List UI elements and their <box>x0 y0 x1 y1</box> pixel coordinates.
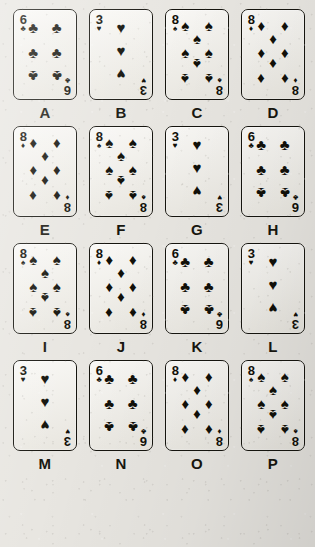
playing-card-o[interactable]: 8♦8♦♦♦♦♦♦♦♦♦ <box>165 360 229 451</box>
pip-field: ♠♠♠♠♠♠♠♠ <box>102 136 140 207</box>
playing-card-d[interactable]: 8♦8♦♦♦♦♦♦♦♦♦ <box>241 9 305 100</box>
clubs-pip-icon: ♣ <box>256 161 266 176</box>
diamonds-pip-icon: ♦ <box>117 265 125 280</box>
corner-index-tl: 8♠ <box>93 130 106 150</box>
pip-field: ♣♣♣♣♣♣ <box>254 136 292 207</box>
clubs-pip-icon: ♣ <box>104 370 114 385</box>
card-rank: 8 <box>216 84 223 97</box>
pip-field: ♥♥♥ <box>178 136 216 207</box>
pip-field: ♥♥♥ <box>254 253 292 324</box>
diamonds-pip-icon: ♦ <box>281 71 289 86</box>
clubs-pip-icon: ♣ <box>52 19 62 34</box>
clubs-pip-icon: ♣ <box>280 161 290 176</box>
playing-card-m[interactable]: 3♥3♥♥♥♥ <box>13 360 77 451</box>
diamonds-pip-icon: ♦ <box>129 278 137 293</box>
pip-field: ♦♦♦♦♦♦♦♦ <box>26 136 64 207</box>
clubs-icon: ♣ <box>172 259 177 266</box>
card-cell: 8♠8♠♠♠♠♠♠♠♠♠P <box>241 360 305 471</box>
diamonds-pip-icon: ♦ <box>29 134 37 149</box>
corner-index-br: 6♣ <box>289 194 302 214</box>
diamonds-pip-icon: ♦ <box>205 368 213 383</box>
corner-index-br: 3♥ <box>289 311 302 331</box>
card-label-p: P <box>268 456 278 471</box>
corner-index-br: 8♠ <box>289 428 302 448</box>
spades-pip-icon: ♠ <box>53 251 61 266</box>
playing-card-i[interactable]: 8♠8♠♠♠♠♠♠♠♠♠ <box>13 243 77 334</box>
diamonds-pip-icon: ♦ <box>53 161 61 176</box>
card-label-d: D <box>267 105 278 120</box>
corner-index-br: 8♦ <box>137 311 150 331</box>
diamonds-icon: ♦ <box>217 428 221 435</box>
spades-pip-icon: ♠ <box>29 305 37 320</box>
playing-card-l[interactable]: 3♥3♥♥♥♥ <box>241 243 305 334</box>
hearts-pip-icon: ♥ <box>41 418 50 433</box>
playing-card-b[interactable]: 3♥3♥♥♥♥ <box>89 9 153 100</box>
corner-index-br: 3♥ <box>61 428 74 448</box>
spades-icon: ♠ <box>293 428 297 435</box>
playing-card-e[interactable]: 8♦8♦♦♦♦♦♦♦♦♦ <box>13 126 77 217</box>
card-label-k: K <box>191 339 202 354</box>
spades-pip-icon: ♠ <box>29 278 37 293</box>
hearts-pip-icon: ♥ <box>117 43 126 58</box>
spades-pip-icon: ♠ <box>269 382 277 397</box>
diamonds-pip-icon: ♦ <box>281 44 289 59</box>
card-rank: 6 <box>292 201 299 214</box>
playing-card-g[interactable]: 3♥3♥♥♥♥ <box>165 126 229 217</box>
playing-card-h[interactable]: 6♣6♣♣♣♣♣♣♣ <box>241 126 305 217</box>
spades-pip-icon: ♠ <box>193 31 201 46</box>
playing-card-j[interactable]: 8♦8♦♦♦♦♦♦♦♦♦ <box>89 243 153 334</box>
corner-index-tl: 3♥ <box>245 247 258 267</box>
diamonds-pip-icon: ♦ <box>269 31 277 46</box>
spades-pip-icon: ♠ <box>29 251 37 266</box>
diamonds-pip-icon: ♦ <box>53 188 61 203</box>
diamonds-pip-icon: ♦ <box>53 134 61 149</box>
card-cell: 8♦8♦♦♦♦♦♦♦♦♦O <box>165 360 229 471</box>
diamonds-pip-icon: ♦ <box>193 408 201 423</box>
corner-index-tl: 8♠ <box>169 13 182 33</box>
clubs-pip-icon: ♣ <box>104 419 114 434</box>
clubs-pip-icon: ♣ <box>256 136 266 151</box>
diamonds-icon: ♦ <box>293 77 297 84</box>
playing-card-a[interactable]: 6♣6♣♣♣♣♣♣♣ <box>13 9 77 100</box>
diamonds-pip-icon: ♦ <box>257 44 265 59</box>
playing-card-k[interactable]: 6♣6♣♣♣♣♣♣♣ <box>165 243 229 334</box>
diamonds-icon: ♦ <box>249 25 253 32</box>
hearts-pip-icon: ♥ <box>41 394 50 409</box>
diamonds-icon: ♦ <box>141 311 145 318</box>
clubs-pip-icon: ♣ <box>204 278 214 293</box>
card-rank: 8 <box>292 84 299 97</box>
card-label-n: N <box>115 456 126 471</box>
clubs-pip-icon: ♣ <box>180 278 190 293</box>
playing-card-n[interactable]: 6♣6♣♣♣♣♣♣♣ <box>89 360 153 451</box>
diamonds-pip-icon: ♦ <box>205 395 213 410</box>
diamonds-pip-icon: ♦ <box>105 278 113 293</box>
spades-pip-icon: ♠ <box>205 17 213 32</box>
clubs-icon: ♣ <box>20 25 25 32</box>
diamonds-pip-icon: ♦ <box>29 188 37 203</box>
clubs-pip-icon: ♣ <box>180 253 190 268</box>
spades-pip-icon: ♠ <box>269 408 277 423</box>
pip-field: ♥♥♥ <box>26 370 64 441</box>
corner-index-tl: 8♠ <box>245 364 258 384</box>
card-rank: 8 <box>140 318 147 331</box>
pip-field: ♠♠♠♠♠♠♠♠ <box>178 19 216 90</box>
diamonds-pip-icon: ♦ <box>281 17 289 32</box>
diamonds-icon: ♦ <box>65 194 69 201</box>
spades-pip-icon: ♠ <box>129 188 137 203</box>
card-label-i: I <box>43 339 47 354</box>
corner-index-tl: 6♣ <box>169 247 182 267</box>
card-cell: 3♥3♥♥♥♥M <box>13 360 77 471</box>
card-label-c: C <box>191 105 202 120</box>
hearts-icon: ♥ <box>141 77 146 84</box>
spades-pip-icon: ♠ <box>129 134 137 149</box>
card-label-m: M <box>39 456 52 471</box>
corner-index-br: 6♣ <box>61 77 74 97</box>
spades-pip-icon: ♠ <box>281 422 289 437</box>
diamonds-icon: ♦ <box>21 142 25 149</box>
clubs-icon: ♣ <box>140 428 145 435</box>
playing-card-c[interactable]: 8♠8♠♠♠♠♠♠♠♠♠ <box>165 9 229 100</box>
corner-index-br: 8♦ <box>289 77 302 97</box>
playing-card-f[interactable]: 8♠8♠♠♠♠♠♠♠♠♠ <box>89 126 153 217</box>
diamonds-icon: ♦ <box>97 259 101 266</box>
playing-card-p[interactable]: 8♠8♠♠♠♠♠♠♠♠♠ <box>241 360 305 451</box>
